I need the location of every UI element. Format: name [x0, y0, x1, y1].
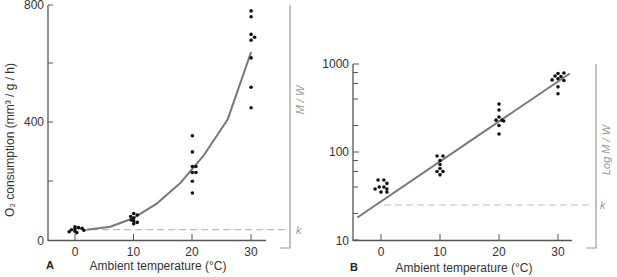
chart-b-ytick-label: 1000: [322, 57, 349, 71]
chart-a-data-point: [249, 9, 253, 13]
chart-b-data-point: [377, 185, 381, 189]
chart-b-side-label: Log M / W: [600, 123, 612, 175]
chart-a-data-point: [191, 191, 195, 195]
chart-b-data-point: [556, 85, 560, 89]
chart-a-ytick-label: 400: [24, 115, 44, 129]
chart-a-data-point: [191, 134, 195, 138]
chart-a-xtick-label: 20: [185, 245, 199, 259]
chart-b-side-bracket: [586, 64, 596, 248]
chart-b-k-label: k: [600, 199, 606, 211]
chart-a-data-point: [194, 171, 198, 175]
chart-a-data-point: [194, 165, 198, 169]
chart-a-fit-curve: [87, 52, 251, 230]
chart-b-data-point: [550, 78, 554, 82]
chart-b-data-point: [562, 79, 566, 83]
chart-b-fit-line: [357, 73, 569, 217]
chart-a-panel-letter: A: [46, 259, 54, 271]
chart-b-ytick-label: 100: [329, 145, 349, 159]
chart-b-data-point: [385, 190, 389, 194]
figure: 800 400 0 0 10 20 30 A Ambient temperatu…: [0, 0, 617, 277]
chart-a-xtick-label: 10: [127, 245, 141, 259]
chart-b-plot-area: [357, 71, 592, 217]
chart-a-side-label: M / W: [294, 84, 306, 114]
chart-b-data-point: [438, 167, 442, 171]
chart-b: 1000 100 10 0 10 20 30 B Ambient tempera…: [322, 57, 612, 275]
chart-b-data-point: [435, 170, 439, 174]
chart-b-data-point: [556, 77, 560, 81]
chart-b-data-point: [379, 190, 383, 194]
chart-b-data-point: [435, 154, 439, 158]
chart-a-side-bracket: [280, 5, 290, 248]
chart-a-data-point: [249, 85, 253, 89]
chart-b-xtick-label: 0: [378, 245, 385, 259]
chart-a-data-point: [67, 230, 71, 234]
chart-a-data-point: [130, 218, 134, 222]
chart-b-data-point: [497, 124, 501, 128]
chart-a-data-point: [191, 150, 195, 154]
chart-b-data-point: [382, 185, 386, 189]
chart-b-xtick-label: 10: [433, 245, 447, 259]
chart-a-data-point: [77, 226, 81, 230]
chart-a-data-point: [249, 56, 253, 60]
chart-b-data-point: [382, 178, 386, 182]
chart-b-data-point: [373, 187, 377, 191]
chart-a: 800 400 0 0 10 20 30 A Ambient temperatu…: [3, 0, 306, 273]
chart-b-data-point: [559, 75, 563, 79]
chart-b-data-point: [494, 118, 498, 122]
chart-b-ytick-label: 10: [336, 234, 350, 248]
chart-b-data-point: [562, 71, 566, 75]
chart-b-data-point: [438, 173, 442, 177]
chart-a-data-point: [191, 171, 195, 175]
chart-a-xtick-label: 0: [72, 245, 79, 259]
chart-b-data-point: [556, 72, 560, 76]
chart-a-data-point: [132, 212, 136, 216]
chart-b-data-point: [497, 115, 501, 119]
chart-a-data-point: [191, 165, 195, 169]
chart-a-ytick-label: 800: [24, 0, 44, 12]
chart-b-data-point: [441, 170, 445, 174]
chart-a-data-point: [73, 225, 77, 229]
chart-a-data-point: [249, 33, 253, 37]
chart-b-x-axis-title: Ambient temperature (°C): [396, 261, 533, 275]
chart-b-data-point: [553, 74, 557, 78]
chart-b-xtick-label: 30: [551, 245, 565, 259]
chart-a-data-point: [253, 36, 257, 40]
chart-b-data-point: [385, 187, 389, 191]
chart-b-xtick-label: 20: [492, 245, 506, 259]
chart-b-yticks: [353, 64, 359, 240]
chart-a-x-axis-title: Ambient temperature (°C): [90, 259, 227, 273]
chart-b-data-point: [497, 102, 501, 106]
chart-a-data-point: [75, 231, 79, 235]
chart-b-data-point: [502, 119, 506, 123]
chart-b-data-point: [556, 92, 560, 96]
chart-b-panel-letter: B: [350, 261, 358, 273]
chart-a-y-axis-title: O₂ consumption (mm³ / g / h): [3, 63, 17, 217]
chart-a-data-point: [135, 221, 139, 225]
chart-b-data-point: [385, 182, 389, 186]
chart-a-k-label: k: [296, 224, 302, 236]
chart-a-data-point: [135, 213, 139, 217]
chart-a-plot-area: [67, 9, 285, 234]
chart-a-data-point: [249, 38, 253, 42]
chart-a-data-point: [191, 179, 195, 183]
chart-b-data-point: [497, 108, 501, 112]
chart-b-data-point: [497, 132, 501, 136]
chart-a-data-point: [129, 215, 133, 219]
chart-a-data-point: [249, 106, 253, 110]
chart-b-data-point: [438, 163, 442, 167]
chart-a-data-point: [249, 15, 253, 19]
chart-b-data-point: [438, 159, 442, 163]
chart-a-ytick-label: 0: [37, 234, 44, 248]
chart-a-data-point: [82, 229, 86, 233]
chart-b-data-point: [376, 178, 380, 182]
chart-b-data-point: [441, 154, 445, 158]
chart-a-xtick-label: 30: [244, 245, 258, 259]
